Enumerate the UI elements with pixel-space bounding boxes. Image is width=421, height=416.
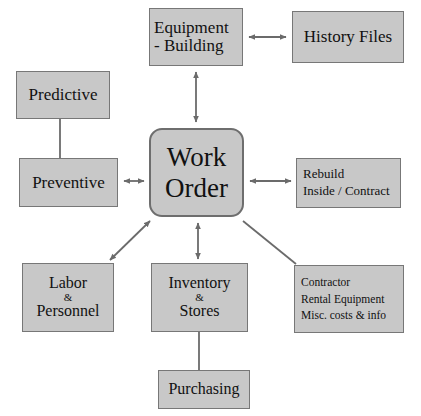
node-contractor-line1: Contractor	[301, 274, 350, 291]
node-work-order-line2: Order	[165, 173, 228, 203]
node-labor-line3: Personnel	[36, 303, 99, 320]
node-rebuild-line1: Rebuild	[303, 166, 344, 183]
node-contractor[interactable]: Contractor Rental Equipment Misc. costs …	[294, 265, 404, 333]
node-equipment-building[interactable]: Equipment - Building	[149, 8, 243, 66]
node-labor-line1: Labor	[49, 275, 87, 292]
node-predictive-label: Predictive	[29, 86, 98, 104]
node-preventive-label: Preventive	[32, 174, 105, 192]
node-inventory[interactable]: Inventory & Stores	[151, 263, 248, 332]
node-contractor-line2: Rental Equipment	[301, 291, 384, 308]
node-purchasing[interactable]: Purchasing	[158, 370, 250, 409]
node-equipment-building-line2: - Building	[150, 37, 223, 55]
node-contractor-line3: Misc. costs & info	[301, 307, 386, 324]
node-inventory-line3: Stores	[180, 303, 220, 320]
node-work-order[interactable]: Work Order	[149, 128, 244, 217]
node-labor[interactable]: Labor & Personnel	[22, 263, 114, 332]
node-predictive[interactable]: Predictive	[16, 71, 110, 119]
node-history-files-label: History Files	[304, 28, 392, 46]
node-history-files[interactable]: History Files	[292, 11, 404, 63]
edge-labor-to-workorder	[110, 221, 150, 260]
work-order-diagram: Equipment - Building History Files Predi…	[0, 0, 421, 416]
node-preventive[interactable]: Preventive	[19, 158, 118, 207]
node-inventory-line1: Inventory	[168, 275, 230, 292]
node-rebuild[interactable]: Rebuild Inside / Contract	[296, 158, 401, 208]
node-purchasing-label: Purchasing	[168, 381, 239, 398]
edge-contractor-to-workorder	[243, 221, 296, 264]
node-work-order-line1: Work	[167, 142, 226, 172]
node-equipment-building-line1: Equipment	[150, 19, 229, 37]
node-rebuild-line2: Inside / Contract	[303, 183, 390, 200]
